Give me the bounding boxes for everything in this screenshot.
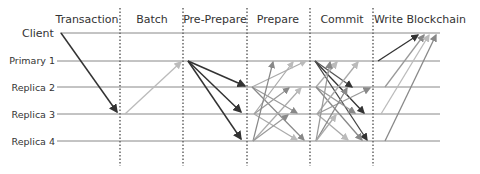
node-label-replica-2: Replica 2	[12, 82, 55, 93]
node-label-client: Client	[22, 27, 55, 40]
phase-label-prepare: Prepare	[257, 13, 299, 26]
node-label-replica-4: Replica 4	[12, 136, 55, 147]
arrows-write-blockchain	[378, 35, 436, 141]
phase-label-transaction: Transaction	[55, 13, 119, 26]
arrows-prepare	[252, 61, 306, 141]
phase-label-batch: Batch	[136, 13, 168, 26]
phase-label-write-blockchain: Write Blockchain	[374, 13, 466, 26]
pbft-diagram: Transaction Batch Pre-Prepare Prepare Co…	[0, 0, 480, 174]
phase-label-commit: Commit	[320, 13, 364, 26]
arrows-commit	[315, 61, 370, 141]
timelines	[57, 33, 440, 141]
arrow-transaction	[61, 33, 117, 112]
arrow-batch	[125, 62, 181, 114]
phase-label-pre-prepare: Pre-Prepare	[183, 13, 247, 26]
arrows-pre-prepare	[188, 61, 245, 139]
node-label-replica-3: Replica 3	[12, 109, 55, 120]
node-label-primary-1: Primary 1	[9, 55, 55, 66]
